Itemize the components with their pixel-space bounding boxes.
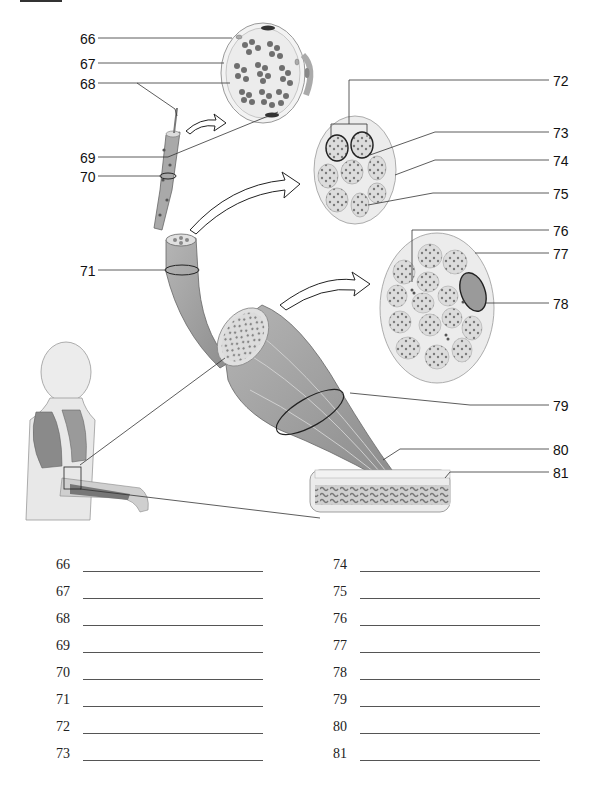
muscle-fiber <box>154 108 180 230</box>
answer-number: 72 <box>56 719 70 735</box>
answer-number: 76 <box>333 611 347 627</box>
callout-67: 67 <box>80 57 96 71</box>
answer-blank-80[interactable] <box>360 733 540 734</box>
callout-81: 81 <box>553 466 569 480</box>
answer-number: 81 <box>333 746 347 762</box>
answer-blank-79[interactable] <box>360 706 540 707</box>
callout-76: 76 <box>553 224 569 238</box>
answer-blank-69[interactable] <box>83 652 263 653</box>
answer-number: 75 <box>333 584 347 600</box>
fascicle-group-cross-section <box>314 116 396 224</box>
human-figure <box>26 342 148 520</box>
myofibril-cross-section <box>221 23 310 123</box>
answer-blank-74[interactable] <box>360 571 540 572</box>
answer-blank-75[interactable] <box>360 598 540 599</box>
callout-70: 70 <box>80 170 96 184</box>
arrow-icon <box>280 272 370 310</box>
answer-blank-71[interactable] <box>83 706 263 707</box>
answer-blank-81[interactable] <box>360 760 540 761</box>
answer-number: 74 <box>333 557 347 573</box>
answer-number: 66 <box>56 557 70 573</box>
arrow-icon <box>190 172 300 234</box>
answer-blank-78[interactable] <box>360 679 540 680</box>
answer-number: 70 <box>56 665 70 681</box>
answer-number: 73 <box>56 746 70 762</box>
callout-80: 80 <box>553 443 569 457</box>
answer-number: 79 <box>333 692 347 708</box>
answer-number: 67 <box>56 584 70 600</box>
whole-muscle <box>207 298 392 478</box>
answer-blank-68[interactable] <box>83 625 263 626</box>
answer-blank-73[interactable] <box>83 760 263 761</box>
answer-blank-66[interactable] <box>83 571 263 572</box>
answer-number: 69 <box>56 638 70 654</box>
answer-blank-72[interactable] <box>83 733 263 734</box>
answer-blank-76[interactable] <box>360 625 540 626</box>
answer-number: 77 <box>333 638 347 654</box>
muscle-cross-section <box>380 233 494 383</box>
callout-73: 73 <box>553 126 569 140</box>
callout-77: 77 <box>553 247 569 261</box>
answer-number: 68 <box>56 611 70 627</box>
callout-69: 69 <box>80 151 96 165</box>
answer-blank-70[interactable] <box>83 679 263 680</box>
callout-72: 72 <box>553 74 569 88</box>
bone <box>310 470 450 512</box>
callout-68: 68 <box>80 77 96 91</box>
callout-71: 71 <box>80 264 96 278</box>
answer-number: 80 <box>333 719 347 735</box>
answer-blank-67[interactable] <box>83 598 263 599</box>
answer-blank-77[interactable] <box>360 652 540 653</box>
callout-79: 79 <box>553 399 569 413</box>
callout-66: 66 <box>80 32 96 46</box>
callout-74: 74 <box>553 154 569 168</box>
callout-75: 75 <box>553 187 569 201</box>
answer-number: 78 <box>333 665 347 681</box>
arrow-icon <box>186 114 226 134</box>
answer-number: 71 <box>56 692 70 708</box>
callout-78: 78 <box>553 297 569 311</box>
